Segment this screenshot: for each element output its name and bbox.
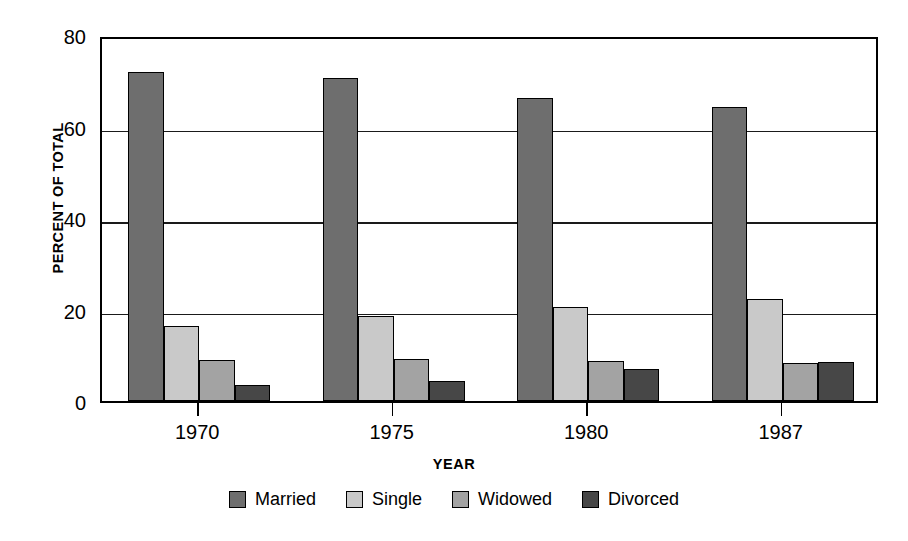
bar bbox=[783, 363, 819, 401]
x-axis-tick bbox=[197, 403, 199, 416]
bar bbox=[712, 107, 748, 401]
legend-label: Single bbox=[372, 490, 422, 508]
bar bbox=[323, 78, 359, 401]
legend-label: Divorced bbox=[608, 490, 679, 508]
bar bbox=[235, 385, 271, 401]
bar bbox=[429, 381, 465, 401]
y-axis-tick-label: 60 bbox=[34, 119, 86, 139]
x-axis-tick-label: 1975 bbox=[332, 421, 452, 444]
bar bbox=[818, 362, 854, 401]
y-axis-tick-label: 40 bbox=[34, 210, 86, 230]
x-axis-tick bbox=[781, 403, 783, 416]
bars-layer bbox=[102, 39, 876, 401]
legend-swatch-icon bbox=[582, 491, 599, 508]
x-axis-title: YEAR bbox=[0, 456, 908, 472]
bar-chart: PERCENT OF TOTAL 020406080 1970197519801… bbox=[0, 0, 908, 541]
y-axis-tick-label: 0 bbox=[34, 393, 86, 413]
y-axis-tick-label: 80 bbox=[34, 27, 86, 47]
x-axis-tick-label: 1980 bbox=[526, 421, 646, 444]
legend-label: Widowed bbox=[478, 490, 552, 508]
bar bbox=[164, 326, 200, 401]
bar bbox=[358, 316, 394, 401]
x-axis-tick bbox=[586, 403, 588, 416]
x-axis-tick-label: 1987 bbox=[721, 421, 841, 444]
y-axis-tick-label: 20 bbox=[34, 302, 86, 322]
bar bbox=[624, 369, 660, 401]
x-axis-tick bbox=[392, 403, 394, 416]
legend-item: Divorced bbox=[582, 490, 679, 508]
bar bbox=[588, 361, 624, 401]
legend-label: Married bbox=[255, 490, 316, 508]
legend-item: Widowed bbox=[452, 490, 552, 508]
bar bbox=[747, 299, 783, 401]
bar bbox=[128, 72, 164, 401]
legend-swatch-icon bbox=[346, 491, 363, 508]
legend-item: Married bbox=[229, 490, 316, 508]
bar bbox=[199, 360, 235, 401]
legend-swatch-icon bbox=[229, 491, 246, 508]
bar bbox=[517, 98, 553, 401]
plot-area bbox=[100, 37, 878, 403]
legend-swatch-icon bbox=[452, 491, 469, 508]
chart-legend: MarriedSingleWidowedDivorced bbox=[0, 490, 908, 508]
bar bbox=[553, 307, 589, 401]
x-axis-tick-label: 1970 bbox=[137, 421, 257, 444]
bar bbox=[394, 359, 430, 401]
y-axis-title: PERCENT OF TOTAL bbox=[50, 78, 66, 318]
legend-item: Single bbox=[346, 490, 422, 508]
